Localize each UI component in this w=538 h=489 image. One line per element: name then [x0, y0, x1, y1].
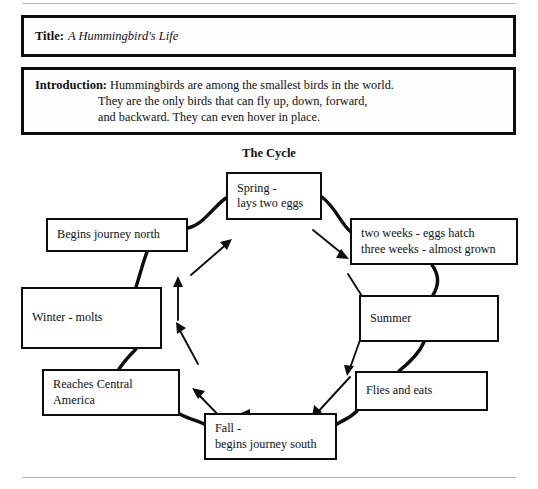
connector-flies-to-fall [337, 411, 357, 424]
title-value: A Hummingbird's Life [68, 29, 178, 43]
introduction-line-1: Introduction: Hummingbirds are among the… [35, 77, 513, 93]
cycle-node-two-weeks[interactable]: two weeks - eggs hatch three weeks - alm… [350, 218, 518, 265]
title-label: Title: [35, 29, 64, 43]
page-top-rule [22, 3, 516, 4]
introduction-line-3: and backward. They can even hover in pla… [35, 109, 513, 125]
introduction-text: Introduction: Hummingbirds are among the… [35, 77, 513, 126]
connector-twoweeks-to-summer [432, 265, 437, 295]
introduction-label: Introduction: [35, 78, 107, 92]
page-bottom-rule [22, 477, 516, 478]
introduction-line-1-text: Hummingbirds are among the smallest bird… [110, 78, 394, 92]
cycle-node-reaches-central-america[interactable]: Reaches Central America [42, 369, 180, 416]
cycle-node-two-weeks-line-1: two weeks - eggs hatch [361, 226, 516, 242]
cycle-node-winter[interactable]: Winter - molts [21, 287, 162, 349]
connector-spring-to-twoweeks [322, 197, 351, 232]
cycle-node-winter-line-1: Winter - molts [32, 310, 160, 326]
cycle-node-fall-line-1: Fall - [215, 421, 335, 437]
cycle-node-fall-line-2: begins journey south [215, 437, 335, 453]
flow-arrow-to-spring [191, 242, 229, 275]
introduction-block: Introduction: Hummingbirds are among the… [21, 67, 516, 135]
cycle-diagram: Spring - lays two eggs two weeks - eggs … [0, 162, 538, 462]
cycle-node-flies-and-eats-line-1: Flies and eats [366, 383, 486, 399]
flow-arrow-flies-to-fall [316, 377, 350, 414]
flow-arrow-summer-to-flies-head [344, 365, 354, 376]
cycle-node-begins-line-1: Begins journey north [57, 227, 186, 243]
cycle-node-begins-journey-north[interactable]: Begins journey north [46, 218, 188, 252]
cycle-node-flies-and-eats[interactable]: Flies and eats [355, 371, 488, 411]
flow-arrow-fall-to-reaches-head [192, 388, 205, 399]
connector-fall-to-reaches [180, 414, 204, 424]
title-block: Title: A Hummingbird's Life [21, 15, 516, 57]
connector-winter-to-begins [136, 252, 147, 287]
cycle-node-reaches-line-2: America [53, 393, 178, 409]
connector-begins-to-spring [188, 198, 226, 228]
cycle-node-spring-line-2: lays two eggs [237, 196, 320, 212]
flow-arrow-group [173, 230, 375, 427]
cycle-node-summer[interactable]: Summer [359, 295, 499, 342]
flow-arrow-winter-to-begins-head [173, 276, 183, 287]
cycle-heading: The Cycle [0, 146, 538, 161]
connector-reaches-to-winter [119, 349, 136, 369]
cycle-node-two-weeks-line-2: three weeks - almost grown [361, 242, 516, 258]
introduction-line-2: They are the only birds that can fly up,… [35, 93, 513, 109]
cycle-node-spring-line-1: Spring - [237, 181, 320, 197]
connector-summer-to-flies [399, 342, 424, 371]
flow-arrow-reaches-to-winter [178, 327, 198, 364]
cycle-node-fall[interactable]: Fall - begins journey south [204, 413, 337, 460]
cycle-node-summer-line-1: Summer [370, 311, 497, 327]
cycle-node-spring[interactable]: Spring - lays two eggs [226, 172, 322, 220]
cycle-node-reaches-line-1: Reaches Central [53, 377, 178, 393]
